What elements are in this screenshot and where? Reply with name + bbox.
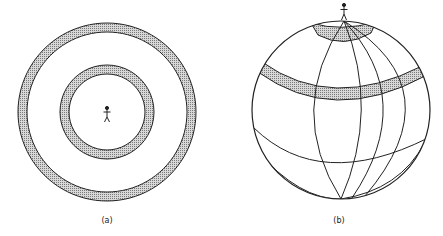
panel-a-label: (a) [101,216,112,225]
observer-icon [341,3,348,20]
observer-icon [104,106,111,122]
figure-canvas: (a) [0,0,443,236]
meridians [314,21,406,199]
panel-b-label: (b) [333,216,344,225]
parallels [254,128,428,199]
panel-a: (a) [18,23,196,225]
panel-b: (b) [252,3,430,225]
